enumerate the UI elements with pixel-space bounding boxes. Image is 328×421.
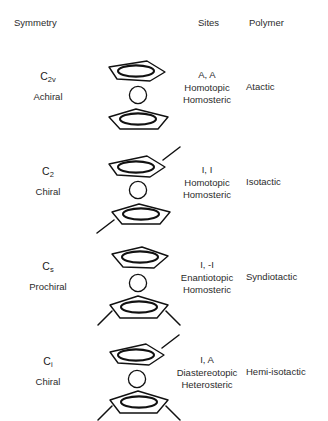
sites-stericity: Homosteric xyxy=(168,284,246,297)
sites-cell: I, A Diastereotopic Heterosteric xyxy=(168,354,246,392)
symmetry-point-group: Ci xyxy=(0,354,96,372)
chirality-label: Prochiral xyxy=(0,280,96,294)
symmetry-point-group: Cs xyxy=(0,259,96,277)
symmetry-point-group: C2 xyxy=(0,164,96,182)
sites-stericity: Heterosteric xyxy=(168,379,246,392)
sites-label: I, -I xyxy=(168,259,246,272)
chirality-label: Chiral xyxy=(0,185,96,199)
symmetry-symbol-subscript: 2v xyxy=(48,75,56,84)
sites-label: I, A xyxy=(168,354,246,367)
symmetry-symbol-letter: C xyxy=(43,355,51,367)
table-row: C2 Chiral xyxy=(0,142,328,238)
symmetry-symbol-letter: C xyxy=(42,260,50,272)
sites-topicity: Homotopic xyxy=(168,82,246,95)
symmetry-cell: C2 Chiral xyxy=(0,164,96,199)
sites-cell: I, -I Enantiotopic Homosteric xyxy=(168,259,246,297)
polymer-tacticity: Hemi-isotactic xyxy=(246,366,328,379)
symmetry-symbol-subscript: 2 xyxy=(50,170,54,179)
symmetry-symbol-letter: C xyxy=(42,165,50,177)
polymer-tacticity: Isotactic xyxy=(246,176,328,189)
polymer-cell: Syndiotactic xyxy=(246,271,328,284)
chirality-label: Achiral xyxy=(0,90,96,104)
symmetry-cell: C2v Achiral xyxy=(0,69,96,104)
symmetry-cell: Ci Chiral xyxy=(0,354,96,389)
sites-label: I, I xyxy=(168,164,246,177)
symmetry-symbol-letter: C xyxy=(40,70,48,82)
column-header-row: Symmetry Sites Polymer xyxy=(0,17,328,33)
sites-stericity: Homosteric xyxy=(168,94,246,107)
polymer-tacticity: Atactic xyxy=(246,81,328,94)
table-row: C2v Achiral A, A Homotopic Homoste xyxy=(0,47,328,143)
polymer-cell: Isotactic xyxy=(246,176,328,189)
sites-cell: A, A Homotopic Homosteric xyxy=(168,69,246,107)
symmetry-symbol-subscript: s xyxy=(50,265,54,274)
column-header-polymer: Polymer xyxy=(249,17,284,29)
column-header-sites: Sites xyxy=(198,17,219,29)
polymer-cell: Atactic xyxy=(246,81,328,94)
column-header-symmetry: Symmetry xyxy=(14,17,57,29)
polymer-tacticity: Syndiotactic xyxy=(246,271,328,284)
sites-stericity: Homosteric xyxy=(168,189,246,202)
symmetry-symbol-subscript: i xyxy=(51,360,53,369)
sites-topicity: Enantiotopic xyxy=(168,272,246,285)
metallocene-symmetry-figure: Symmetry Sites Polymer C2v Achiral xyxy=(0,0,328,421)
table-row: Ci Chiral xyxy=(0,332,328,421)
sites-topicity: Diastereotopic xyxy=(168,367,246,380)
polymer-cell: Hemi-isotactic xyxy=(246,366,328,379)
sites-topicity: Homotopic xyxy=(168,177,246,190)
table-row: Cs Prochiral xyxy=(0,237,328,333)
symmetry-point-group: C2v xyxy=(0,69,96,87)
sites-cell: I, I Homotopic Homosteric xyxy=(168,164,246,202)
sites-label: A, A xyxy=(168,69,246,82)
symmetry-cell: Cs Prochiral xyxy=(0,259,96,294)
chirality-label: Chiral xyxy=(0,375,96,389)
